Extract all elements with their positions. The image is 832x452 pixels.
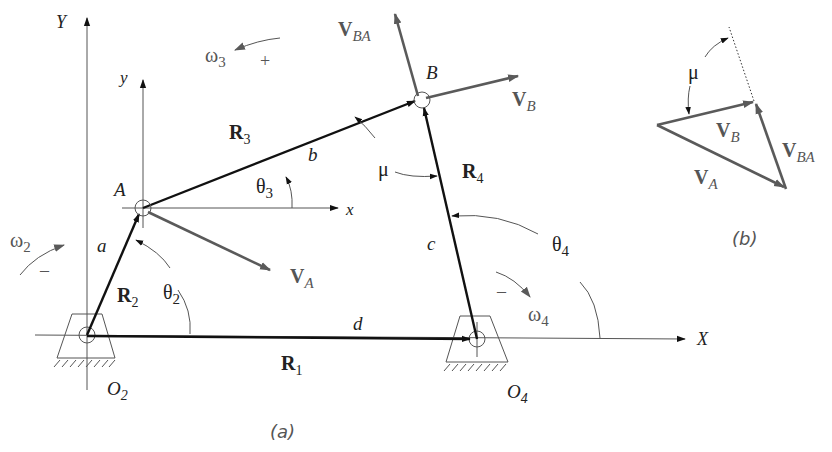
omega3-label: ω3 bbox=[205, 44, 226, 70]
theta3-arc bbox=[286, 177, 292, 208]
omega2-label: ω2 bbox=[10, 229, 31, 255]
joint-b-label: B bbox=[426, 62, 438, 83]
polygon-mu-label: μ bbox=[688, 61, 699, 84]
link-r2 bbox=[87, 214, 139, 335]
mu-arc-right bbox=[395, 172, 437, 177]
vba-label: VBA bbox=[338, 18, 372, 44]
velocity-polygon bbox=[657, 27, 786, 189]
local-x-label: x bbox=[345, 200, 354, 219]
pivot-o4-label: O4 bbox=[507, 381, 528, 406]
link-r1 bbox=[87, 336, 470, 339]
r1-label: R1 bbox=[281, 352, 302, 378]
velocity-va-arrow bbox=[148, 212, 270, 270]
links bbox=[87, 101, 477, 339]
r4-length-label: c bbox=[427, 233, 436, 254]
r3-length-label: b bbox=[308, 144, 318, 165]
polygon-va-label: VA bbox=[694, 166, 718, 192]
theta4-arc-lower bbox=[580, 282, 600, 338]
polygon-mu-arc-bottom bbox=[688, 86, 690, 114]
r2-length-label: a bbox=[97, 235, 107, 256]
global-x-label: X bbox=[696, 329, 709, 349]
va-label: VA bbox=[290, 265, 314, 291]
mu-label: μ bbox=[378, 158, 389, 181]
theta2-label: θ2 bbox=[163, 281, 180, 307]
vb-label: VB bbox=[512, 88, 536, 114]
omega3-arc bbox=[235, 38, 280, 50]
polygon-extension-line bbox=[729, 27, 754, 101]
velocity-vba-arrow bbox=[395, 14, 418, 96]
omega4-label: ω4 bbox=[528, 303, 549, 329]
fourbar-linkage-diagram: Y X y x O2 O4 bbox=[0, 0, 832, 452]
polygon-vb-label: VB bbox=[716, 119, 740, 145]
omega3-sign: + bbox=[260, 51, 270, 71]
theta4-label: θ4 bbox=[552, 233, 570, 259]
r4-label: R4 bbox=[462, 160, 483, 186]
joint-a-label: A bbox=[112, 179, 126, 200]
velocity-vb-arrow bbox=[426, 76, 518, 98]
caption-b: (b) bbox=[732, 228, 757, 249]
r1-length-label: d bbox=[353, 313, 363, 334]
omega4-sign: – bbox=[496, 281, 507, 301]
theta3-label: θ3 bbox=[256, 175, 273, 201]
caption-a: (a) bbox=[270, 421, 295, 442]
polygon-vb-arrow bbox=[657, 102, 753, 125]
link-r3 bbox=[143, 101, 415, 208]
theta2-arc bbox=[136, 240, 170, 268]
global-axes: Y X bbox=[35, 12, 709, 390]
polygon-vba-label: VBA bbox=[782, 139, 816, 165]
polygon-mu-arc-top bbox=[705, 38, 728, 57]
omega-arcs bbox=[20, 38, 530, 297]
pivot-o2-label: O2 bbox=[107, 378, 128, 403]
theta4-arc-upper bbox=[452, 215, 538, 234]
link-r4 bbox=[424, 108, 477, 339]
velocity-vectors bbox=[148, 14, 518, 270]
global-y-label: Y bbox=[56, 12, 68, 32]
ground-pivot-o4: O4 bbox=[444, 316, 528, 406]
r3-label: R3 bbox=[229, 121, 250, 147]
omega2-sign: – bbox=[39, 260, 50, 280]
local-y-label: y bbox=[118, 68, 128, 87]
r2-label: R2 bbox=[117, 284, 138, 310]
